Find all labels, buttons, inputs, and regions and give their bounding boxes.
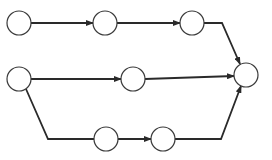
edge-n8-n6 [175,86,241,139]
node-n5 [121,67,145,91]
network-diagram [0,0,272,160]
node-n2 [93,11,117,35]
node-n4 [7,67,31,91]
node-n7 [94,127,118,151]
node-n6 [234,63,258,87]
node-n3 [180,11,204,35]
edge-n4-n7 [26,89,94,139]
node-n1 [7,11,31,35]
edge-n5-n6 [145,76,234,79]
edge-n3-n6 [204,23,240,64]
node-n8 [151,127,175,151]
